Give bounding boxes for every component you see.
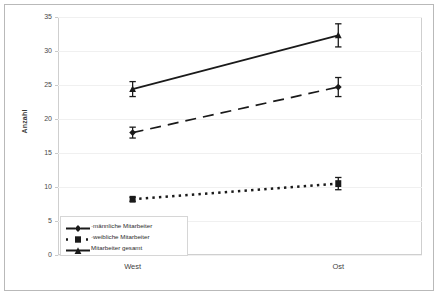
series-0 <box>129 78 341 139</box>
x-tick-label: Ost <box>298 262 378 271</box>
y-tick-label: 5 <box>26 217 52 225</box>
y-tick-label: 20 <box>26 115 52 123</box>
y-tick-label: 10 <box>26 183 52 191</box>
y-tick-label: 30 <box>26 47 52 55</box>
series-line <box>133 87 339 133</box>
legend-key-icon <box>65 231 91 242</box>
series-1 <box>129 177 341 202</box>
series-line <box>133 35 339 89</box>
chart-figure: Anzahl 05101520253035 WestOst ·männliche… <box>0 0 439 296</box>
legend-label: ·männliche Mitarbeiter <box>91 220 152 231</box>
series-2 <box>129 24 341 97</box>
y-tick-mark <box>55 255 58 256</box>
y-tick-label: 15 <box>26 149 52 157</box>
legend-item-2[interactable]: Mitarbeiter gesamt <box>65 242 183 253</box>
legend-item-1[interactable]: ·weibliche Mitarbeiter <box>65 231 183 242</box>
chart-legend[interactable]: ·männliche Mitarbeiter·weibliche Mitarbe… <box>60 216 188 256</box>
x-tick-label: West <box>93 262 173 271</box>
y-tick-label: 25 <box>26 81 52 89</box>
legend-label: Mitarbeiter gesamt <box>91 242 142 253</box>
data-point <box>335 180 341 187</box>
series-line <box>133 184 339 200</box>
data-point <box>130 196 136 203</box>
legend-key-icon <box>65 220 91 231</box>
y-tick-label: 0 <box>26 251 52 259</box>
legend-key-icon <box>65 242 91 253</box>
data-point <box>335 84 342 91</box>
legend-item-0[interactable]: ·männliche Mitarbeiter <box>65 220 183 231</box>
legend-label: ·weibliche Mitarbeiter <box>91 231 149 242</box>
y-tick-label: 35 <box>26 13 52 21</box>
data-point <box>129 129 136 136</box>
data-point <box>335 32 342 39</box>
